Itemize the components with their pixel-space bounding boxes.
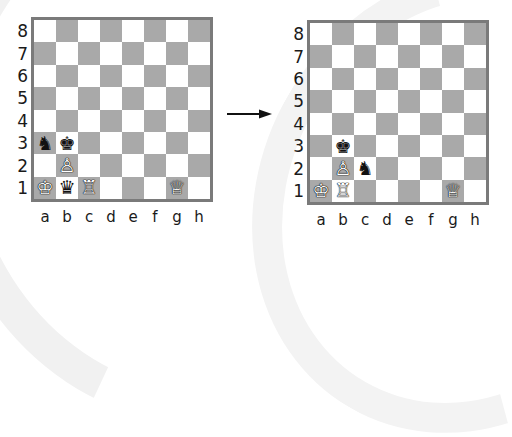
square-c1: ♖ xyxy=(78,177,100,199)
rank-label: 8 xyxy=(12,20,28,42)
file-label: c xyxy=(78,208,100,226)
square-e8 xyxy=(398,23,420,45)
rank-label: 4 xyxy=(12,110,28,132)
file-label: f xyxy=(420,211,442,229)
square-f4 xyxy=(144,110,166,132)
square-d6 xyxy=(376,68,398,90)
square-h8 xyxy=(464,23,486,45)
board-frame: ♞♚♙♔♛♖♕ xyxy=(31,17,213,202)
square-h1 xyxy=(464,180,486,202)
file-label: g xyxy=(442,211,464,229)
square-a2 xyxy=(310,157,332,179)
rank-labels: 8 7 6 5 4 3 2 1 xyxy=(12,20,28,199)
square-h3 xyxy=(464,135,486,157)
square-c5 xyxy=(354,90,376,112)
square-f4 xyxy=(420,113,442,135)
square-c6 xyxy=(354,68,376,90)
square-h7 xyxy=(188,42,210,64)
square-e7 xyxy=(122,42,144,64)
square-h6 xyxy=(464,68,486,90)
square-d2 xyxy=(376,157,398,179)
white-king-icon: ♔ xyxy=(36,178,53,197)
square-b6 xyxy=(332,68,354,90)
rank-label: 8 xyxy=(288,23,304,45)
square-g4 xyxy=(166,110,188,132)
file-labels: a b c d e f g h xyxy=(310,211,486,229)
square-f3 xyxy=(144,132,166,154)
square-e5 xyxy=(122,87,144,109)
square-h7 xyxy=(464,45,486,67)
rank-label: 6 xyxy=(288,68,304,90)
square-c4 xyxy=(354,113,376,135)
square-d2 xyxy=(100,154,122,176)
square-d1 xyxy=(376,180,398,202)
rank-label: 5 xyxy=(12,87,28,109)
file-labels: a b c d e f g h xyxy=(34,208,210,226)
square-f3 xyxy=(420,135,442,157)
square-a4 xyxy=(34,110,56,132)
square-h8 xyxy=(188,20,210,42)
square-a3: ♞ xyxy=(34,132,56,154)
square-c2 xyxy=(78,154,100,176)
black-king-icon: ♚ xyxy=(334,137,351,156)
square-f6 xyxy=(420,68,442,90)
square-f2 xyxy=(420,157,442,179)
rank-label: 7 xyxy=(12,42,28,64)
square-c8 xyxy=(78,20,100,42)
square-a7 xyxy=(34,42,56,64)
rank-label: 3 xyxy=(288,135,304,157)
square-g2 xyxy=(442,157,464,179)
square-b7 xyxy=(56,42,78,64)
rank-label: 2 xyxy=(288,157,304,179)
rank-label: 2 xyxy=(12,154,28,176)
square-g1: ♕ xyxy=(442,180,464,202)
square-a4 xyxy=(310,113,332,135)
square-b6 xyxy=(56,65,78,87)
square-a7 xyxy=(310,45,332,67)
white-king-icon: ♔ xyxy=(312,181,329,200)
square-c8 xyxy=(354,23,376,45)
square-g2 xyxy=(166,154,188,176)
board-grid: ♚♙♞♔♖♕ xyxy=(310,23,486,202)
square-b5 xyxy=(332,90,354,112)
square-f7 xyxy=(144,42,166,64)
square-e1 xyxy=(398,180,420,202)
square-d5 xyxy=(100,87,122,109)
square-c2: ♞ xyxy=(354,157,376,179)
black-king-icon: ♚ xyxy=(58,134,75,153)
square-h1 xyxy=(188,177,210,199)
rank-label: 4 xyxy=(288,113,304,135)
file-label: b xyxy=(56,208,78,226)
square-d3 xyxy=(376,135,398,157)
square-a1: ♔ xyxy=(34,177,56,199)
rank-label: 3 xyxy=(12,132,28,154)
square-f8 xyxy=(144,20,166,42)
file-label: h xyxy=(188,208,210,226)
square-e4 xyxy=(122,110,144,132)
square-b8 xyxy=(56,20,78,42)
square-b7 xyxy=(332,45,354,67)
square-a6 xyxy=(310,68,332,90)
square-f2 xyxy=(144,154,166,176)
white-pawn-icon: ♙ xyxy=(58,156,75,175)
square-e6 xyxy=(398,68,420,90)
square-h4 xyxy=(464,113,486,135)
black-knight-icon: ♞ xyxy=(356,159,373,178)
square-a6 xyxy=(34,65,56,87)
square-g8 xyxy=(166,20,188,42)
file-label: d xyxy=(376,211,398,229)
square-h2 xyxy=(188,154,210,176)
rank-label: 1 xyxy=(12,177,28,199)
square-e8 xyxy=(122,20,144,42)
square-d8 xyxy=(100,20,122,42)
square-b4 xyxy=(332,113,354,135)
file-label: f xyxy=(144,208,166,226)
square-f1 xyxy=(420,180,442,202)
black-queen-icon: ♛ xyxy=(58,178,75,197)
square-c7 xyxy=(78,42,100,64)
square-b2: ♙ xyxy=(332,157,354,179)
square-g7 xyxy=(166,42,188,64)
square-c3 xyxy=(78,132,100,154)
square-d1 xyxy=(100,177,122,199)
square-e3 xyxy=(122,132,144,154)
